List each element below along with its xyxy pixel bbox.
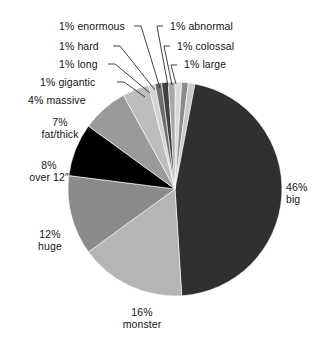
pie-label-over-12: 8% over 12″: [6, 159, 92, 184]
pie-label-massive: 4% massive: [28, 94, 86, 106]
pie-label-big-name: big: [286, 193, 326, 205]
leader-line-large: [171, 65, 177, 84]
pie-label-gigantic: 1% gigantic: [40, 76, 95, 88]
pie-label-over-12-name: over 12″: [6, 171, 92, 183]
pie-label-fat-thick: 7% fat/thick: [24, 116, 96, 141]
pie-label-huge: 12% huge: [18, 228, 82, 253]
pie-label-long: 1% long: [59, 58, 98, 70]
pie-label-abnormal: 1% abnormal: [170, 20, 233, 32]
pie-label-monster-percent: 16%: [131, 306, 152, 318]
pie-label-huge-percent: 12%: [39, 228, 60, 240]
pie-slice-big: [175, 84, 282, 296]
pie-label-over-12-percent: 8%: [41, 159, 56, 171]
leader-line-enormous: [134, 26, 160, 88]
pie-chart-figure: 1% enormous 1% hard 1% long 1% gigantic …: [0, 0, 329, 342]
pie-label-fat-thick-percent: 7%: [52, 116, 67, 128]
pie-label-hard: 1% hard: [59, 40, 99, 52]
pie-label-big: 46% big: [286, 181, 326, 206]
pie-label-huge-name: huge: [18, 240, 82, 252]
pie-label-monster-name: monster: [99, 318, 185, 330]
pie-label-enormous: 1% enormous: [59, 20, 125, 32]
pie-slice-group: [68, 82, 282, 296]
pie-label-big-percent: 46%: [286, 181, 326, 193]
pie-label-large: 1% large: [184, 58, 226, 70]
pie-label-fat-thick-name: fat/thick: [24, 128, 96, 140]
pie-label-colossal: 1% colossal: [177, 40, 234, 52]
pie-label-monster: 16% monster: [99, 306, 185, 331]
